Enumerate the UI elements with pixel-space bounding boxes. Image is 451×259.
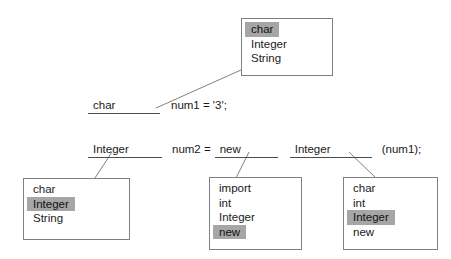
code-line-1: charnum1 = '3'; <box>88 98 227 114</box>
dropdown-option-int[interactable]: int <box>213 196 237 211</box>
dropdown-option-new[interactable]: new <box>213 225 246 240</box>
dropdown-integer-type[interactable]: char Integer String <box>23 178 130 240</box>
dropdown-option-new[interactable]: new <box>347 225 380 240</box>
dropdown-option-char[interactable]: char <box>347 181 381 196</box>
blank-input-keyword-new[interactable]: new <box>215 142 278 158</box>
diagram-canvas: char Integer String charnum1 = '3'; Inte… <box>0 0 451 259</box>
code-line-2-mid: num2 = <box>172 142 211 157</box>
dropdown-new-keyword[interactable]: import int Integer new <box>209 177 302 250</box>
code-line-2: Integernum2 =newInteger(num1); <box>88 142 421 158</box>
code-line-2-tail: (num1); <box>382 142 422 157</box>
dropdown-option-string[interactable]: String <box>27 211 69 226</box>
dropdown-char-type[interactable]: char Integer String <box>241 18 333 76</box>
dropdown-option-char[interactable]: char <box>27 182 61 197</box>
blank-input-type-char[interactable]: char <box>88 98 160 114</box>
dropdown-option-integer[interactable]: Integer <box>213 210 261 225</box>
dropdown-integer-constructor[interactable]: char int Integer new <box>343 177 438 250</box>
dropdown-option-int[interactable]: int <box>347 196 371 211</box>
dropdown-option-import[interactable]: import <box>213 181 257 196</box>
dropdown-option-integer[interactable]: Integer <box>245 37 293 52</box>
dropdown-option-char[interactable]: char <box>245 22 279 37</box>
blank-input-constructor-integer[interactable]: Integer <box>290 142 372 158</box>
dropdown-option-string[interactable]: String <box>245 51 287 66</box>
code-line-1-rest: num1 = '3'; <box>171 98 227 113</box>
blank-input-type-integer[interactable]: Integer <box>88 142 162 158</box>
dropdown-option-integer[interactable]: Integer <box>347 210 395 225</box>
dropdown-option-integer[interactable]: Integer <box>27 197 75 212</box>
